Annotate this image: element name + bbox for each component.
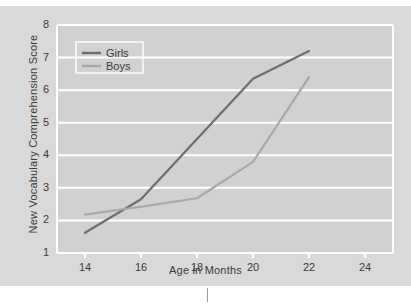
legend-label-girls: Girls bbox=[106, 47, 129, 59]
x-tick-label: 20 bbox=[238, 261, 268, 273]
legend-label-boys: Boys bbox=[106, 60, 131, 72]
line-chart-plot: GirlsBoys bbox=[0, 6, 411, 286]
x-tick-label: 22 bbox=[294, 261, 324, 273]
x-tick-label: 18 bbox=[182, 261, 212, 273]
chart-figure: GirlsBoys New Vocabulary Comprehension S… bbox=[0, 6, 411, 286]
x-tick-label: 14 bbox=[70, 261, 100, 273]
y-tick-label: 6 bbox=[25, 83, 49, 95]
y-tick-label: 8 bbox=[25, 18, 49, 30]
y-tick-label: 4 bbox=[25, 148, 49, 160]
y-tick-label: 5 bbox=[25, 116, 49, 128]
y-tick-label: 1 bbox=[25, 246, 49, 258]
y-tick-label: 3 bbox=[25, 181, 49, 193]
page-tick-mark bbox=[207, 288, 208, 302]
y-tick-label: 2 bbox=[25, 213, 49, 225]
x-tick-label: 16 bbox=[126, 261, 156, 273]
x-tick-label: 24 bbox=[350, 261, 380, 273]
y-tick-label: 7 bbox=[25, 51, 49, 63]
